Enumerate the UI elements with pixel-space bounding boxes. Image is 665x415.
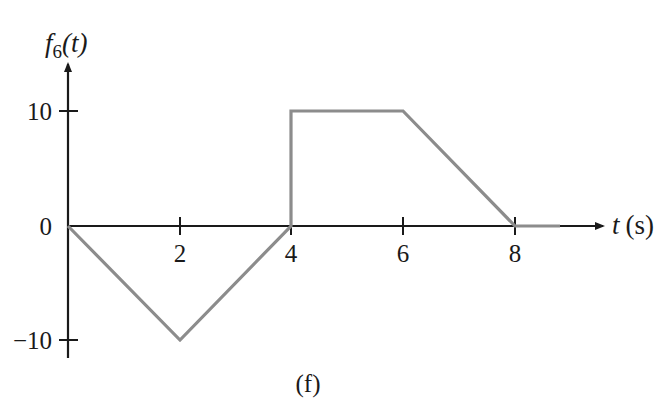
y-tick-label-10: 10 — [27, 98, 52, 125]
y-tick-label-neg10: −10 — [13, 327, 52, 354]
x-tick-label-2: 2 — [174, 240, 187, 267]
y-tick-label-0: 0 — [40, 213, 53, 240]
x-tick-label-8: 8 — [509, 240, 522, 267]
figure-caption: (f) — [296, 370, 321, 398]
chart: 10 0 −10 2 4 6 8 f6(t) t(s) (f) — [0, 0, 665, 415]
x-tick-label-6: 6 — [397, 240, 410, 267]
y-axis-label: f6(t) — [45, 28, 88, 62]
x-axis-label: t(s) — [612, 210, 654, 240]
x-tick-label-4: 4 — [285, 240, 298, 267]
